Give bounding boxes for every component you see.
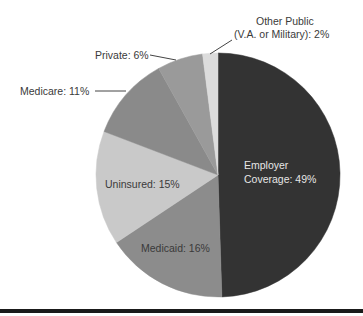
label-employer-line1: Employer bbox=[244, 159, 288, 171]
label-medicare: Medicare: 11% bbox=[20, 85, 89, 97]
label-uninsured: Uninsured: 15% bbox=[105, 178, 180, 190]
leader-line-private bbox=[150, 55, 176, 60]
label-other-public-line1: Other Public bbox=[256, 15, 314, 27]
pie-chart bbox=[0, 0, 363, 316]
label-employer-line2: Coverage: 49% bbox=[244, 173, 316, 185]
label-private: Private: 6% bbox=[95, 49, 149, 61]
leader-line-other-public bbox=[210, 40, 232, 54]
bottom-divider bbox=[0, 309, 363, 313]
label-other-public-line2: (V.A. or Military): 2% bbox=[234, 28, 329, 40]
label-medicaid: Medicaid: 16% bbox=[141, 242, 210, 254]
